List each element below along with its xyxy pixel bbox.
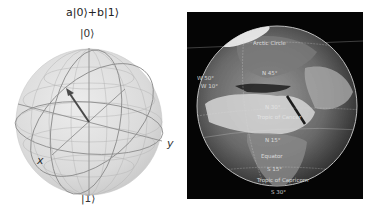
equator-label: Equator <box>261 153 283 159</box>
y-axis-label: y <box>167 137 174 150</box>
arctic-circle-label: Arctic Circle <box>253 40 286 46</box>
n45-label: N 45° <box>262 70 278 76</box>
x-axis-label: x <box>37 154 44 167</box>
tropic-of-cancer-label: Tropic of Cancer <box>257 114 301 120</box>
n15-label: N 15° <box>265 137 281 143</box>
bloch-sphere-panel: a|0⟩+b|1⟩ |0⟩ |1⟩ <box>0 0 185 211</box>
s15-label: S 15° <box>267 166 282 172</box>
tropic-of-capricorn-label: Tropic of Capricorn <box>257 177 308 183</box>
w10-label: W 10° <box>201 83 218 89</box>
s30-label: S 30° <box>271 189 286 195</box>
n30-label: N 30° <box>265 104 281 110</box>
w50-label: W 50° <box>197 75 214 81</box>
globe-panel: Arctic Circle W 50° W 10° N 45° N 30° Tr… <box>187 12 363 199</box>
bloch-sphere-graphic <box>0 0 185 211</box>
